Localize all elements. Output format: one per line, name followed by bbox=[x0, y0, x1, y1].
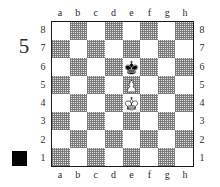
square-h5[interactable] bbox=[175, 76, 193, 94]
rank-label-1-right: 1 bbox=[196, 149, 208, 167]
file-label-h-bottom: h bbox=[176, 168, 194, 182]
file-label-e-bottom: e bbox=[123, 168, 141, 182]
square-d7[interactable] bbox=[105, 40, 123, 58]
square-g7[interactable] bbox=[158, 40, 176, 58]
square-f8[interactable] bbox=[140, 22, 158, 40]
square-h2[interactable] bbox=[175, 130, 193, 148]
square-g5[interactable] bbox=[158, 76, 176, 94]
square-g4[interactable] bbox=[158, 94, 176, 112]
square-h4[interactable] bbox=[175, 94, 193, 112]
square-d4[interactable] bbox=[105, 94, 123, 112]
rank-label-5-right: 5 bbox=[196, 76, 208, 94]
side-to-move-marker bbox=[12, 151, 27, 166]
rank-label-2-right: 2 bbox=[196, 131, 208, 149]
rank-label-8-left: 8 bbox=[37, 21, 49, 39]
file-label-e-top: e bbox=[123, 6, 141, 20]
square-c3[interactable] bbox=[87, 112, 105, 130]
rank-labels-right: 8 7 6 5 4 3 2 1 bbox=[196, 21, 208, 167]
square-e3[interactable] bbox=[123, 112, 141, 130]
square-a3[interactable] bbox=[52, 112, 70, 130]
square-d8[interactable] bbox=[105, 22, 123, 40]
square-a1[interactable] bbox=[52, 148, 70, 166]
rank-label-3-right: 3 bbox=[196, 112, 208, 130]
chess-board[interactable] bbox=[51, 21, 194, 167]
file-label-d-top: d bbox=[105, 6, 123, 20]
square-a4[interactable] bbox=[52, 94, 70, 112]
square-c1[interactable] bbox=[87, 148, 105, 166]
square-b1[interactable] bbox=[70, 148, 88, 166]
square-g3[interactable] bbox=[158, 112, 176, 130]
rank-label-7-left: 7 bbox=[37, 39, 49, 57]
file-label-b-top: b bbox=[69, 6, 87, 20]
square-b8[interactable] bbox=[70, 22, 88, 40]
square-f5[interactable] bbox=[140, 76, 158, 94]
square-f7[interactable] bbox=[140, 40, 158, 58]
square-g6[interactable] bbox=[158, 58, 176, 76]
black-king-icon[interactable] bbox=[123, 59, 140, 76]
square-a7[interactable] bbox=[52, 40, 70, 58]
file-label-c-bottom: c bbox=[87, 168, 105, 182]
rank-label-6-right: 6 bbox=[196, 58, 208, 76]
square-b6[interactable] bbox=[70, 58, 88, 76]
rank-label-4-left: 4 bbox=[37, 94, 49, 112]
square-e6[interactable] bbox=[123, 58, 141, 76]
square-e5[interactable] bbox=[123, 76, 141, 94]
square-c8[interactable] bbox=[87, 22, 105, 40]
square-g2[interactable] bbox=[158, 130, 176, 148]
square-b4[interactable] bbox=[70, 94, 88, 112]
board-grid bbox=[52, 22, 193, 166]
square-c4[interactable] bbox=[87, 94, 105, 112]
square-h8[interactable] bbox=[175, 22, 193, 40]
square-b7[interactable] bbox=[70, 40, 88, 58]
square-a5[interactable] bbox=[52, 76, 70, 94]
square-a6[interactable] bbox=[52, 58, 70, 76]
rank-label-4-right: 4 bbox=[196, 94, 208, 112]
square-c2[interactable] bbox=[87, 130, 105, 148]
square-e1[interactable] bbox=[123, 148, 141, 166]
file-label-g-bottom: g bbox=[158, 168, 176, 182]
diagram-number: 5 bbox=[11, 34, 37, 58]
file-label-a-top: a bbox=[51, 6, 69, 20]
square-a8[interactable] bbox=[52, 22, 70, 40]
square-f3[interactable] bbox=[140, 112, 158, 130]
square-h7[interactable] bbox=[175, 40, 193, 58]
square-d5[interactable] bbox=[105, 76, 123, 94]
square-b2[interactable] bbox=[70, 130, 88, 148]
square-d1[interactable] bbox=[105, 148, 123, 166]
square-h1[interactable] bbox=[175, 148, 193, 166]
square-e2[interactable] bbox=[123, 130, 141, 148]
file-label-g-top: g bbox=[158, 6, 176, 20]
white-pawn-icon[interactable] bbox=[123, 77, 140, 94]
square-d3[interactable] bbox=[105, 112, 123, 130]
square-e7[interactable] bbox=[123, 40, 141, 58]
square-b3[interactable] bbox=[70, 112, 88, 130]
file-label-h-top: h bbox=[176, 6, 194, 20]
square-a2[interactable] bbox=[52, 130, 70, 148]
square-h3[interactable] bbox=[175, 112, 193, 130]
square-c6[interactable] bbox=[87, 58, 105, 76]
square-h6[interactable] bbox=[175, 58, 193, 76]
rank-label-2-left: 2 bbox=[37, 131, 49, 149]
square-d6[interactable] bbox=[105, 58, 123, 76]
rank-label-8-right: 8 bbox=[196, 21, 208, 39]
square-f6[interactable] bbox=[140, 58, 158, 76]
square-g1[interactable] bbox=[158, 148, 176, 166]
square-c5[interactable] bbox=[87, 76, 105, 94]
rank-label-7-right: 7 bbox=[196, 39, 208, 57]
file-label-f-bottom: f bbox=[140, 168, 158, 182]
square-g8[interactable] bbox=[158, 22, 176, 40]
square-f4[interactable] bbox=[140, 94, 158, 112]
square-f2[interactable] bbox=[140, 130, 158, 148]
square-d2[interactable] bbox=[105, 130, 123, 148]
square-f1[interactable] bbox=[140, 148, 158, 166]
file-labels-top: a b c d e f g h bbox=[51, 6, 194, 20]
square-b5[interactable] bbox=[70, 76, 88, 94]
square-e4[interactable] bbox=[123, 94, 141, 112]
file-label-d-bottom: d bbox=[105, 168, 123, 182]
rank-labels-left: 8 7 6 5 4 3 2 1 bbox=[37, 21, 49, 167]
rank-label-1-left: 1 bbox=[37, 149, 49, 167]
rank-label-5-left: 5 bbox=[37, 76, 49, 94]
white-king-icon[interactable] bbox=[123, 95, 140, 112]
square-e8[interactable] bbox=[123, 22, 141, 40]
square-c7[interactable] bbox=[87, 40, 105, 58]
